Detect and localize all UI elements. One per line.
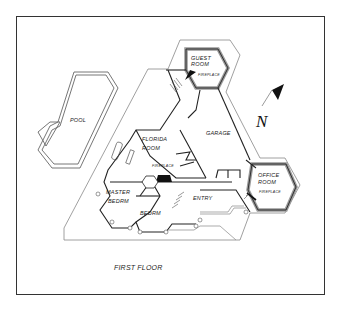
florida-fireplace-label: FIREPLACE — [152, 164, 174, 168]
master-bedrm-label-2: BEDRM — [108, 198, 129, 204]
office-room-label-1: OFFICE — [258, 172, 279, 178]
stairs — [170, 78, 250, 208]
pool-label: POOL — [70, 117, 86, 123]
guest-room-label-2: ROOM — [191, 61, 209, 67]
office-room-label-2: ROOM — [258, 179, 276, 185]
office-fireplace-label: FIREPLACE — [259, 190, 281, 194]
master-bedrm-label-1: MASTER — [106, 189, 130, 195]
guest-fireplace-label: FIREPLACE — [198, 73, 220, 77]
florida-room-label-2: ROOM — [142, 145, 160, 151]
north-arrow-icon — [262, 84, 284, 106]
florida-fireplace — [142, 175, 172, 188]
garage-label: GARAGE — [206, 130, 231, 136]
floor-title: FIRST FLOOR — [114, 264, 162, 271]
entry-label: ENTRY — [193, 195, 213, 201]
north-label: N — [255, 112, 269, 131]
office-room — [248, 164, 296, 210]
florida-room-label-1: FLORIDA — [142, 136, 167, 142]
floor-plan-drawing: N GUEST ROOM FIREPLACE GARAGE POOL FLORI… — [0, 0, 350, 314]
bedrm-label: BEDRM — [140, 210, 161, 216]
walkway — [168, 206, 246, 240]
house-walls — [100, 70, 256, 232]
